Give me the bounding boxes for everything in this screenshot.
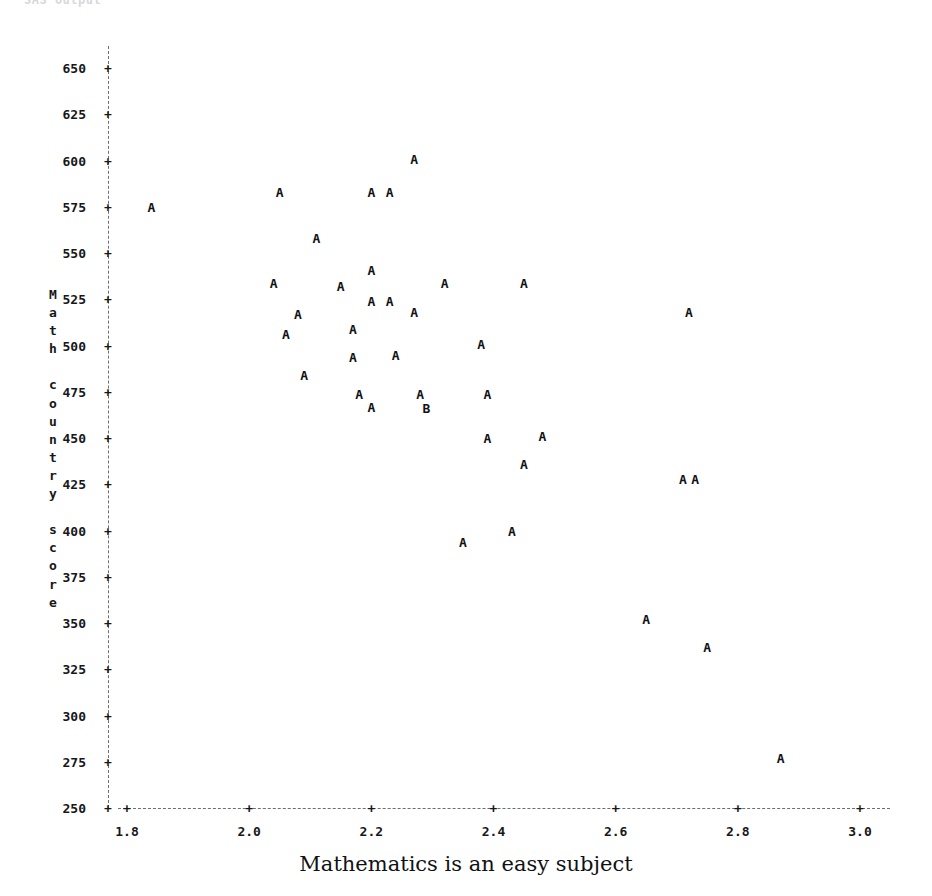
y-tick-label: 325	[63, 662, 86, 677]
y-tick-mark: +	[104, 431, 112, 446]
x-axis-title: Mathematics is an easy subject	[0, 852, 932, 876]
y-tick-label: 450	[63, 431, 86, 446]
y-tick-mark: +	[104, 708, 112, 723]
data-point: A	[355, 386, 363, 401]
y-tick-label: 575	[63, 199, 86, 214]
x-axis-line	[118, 808, 890, 809]
y-title-char: r	[46, 467, 60, 485]
data-point: A	[777, 751, 785, 766]
y-title-char: a	[46, 304, 60, 322]
y-tick-mark: +	[104, 338, 112, 353]
y-tick-mark: +	[104, 107, 112, 122]
y-tick-mark: +	[104, 292, 112, 307]
data-point: A	[349, 321, 357, 336]
scatter-plot: 650+625+600+575+550+525+500+475+450+425+…	[0, 0, 932, 896]
x-tick-mark: +	[245, 801, 253, 816]
y-title-char: u	[46, 413, 60, 431]
data-point: B	[422, 401, 430, 416]
data-point: A	[276, 184, 284, 199]
y-tick-label: 375	[63, 569, 86, 584]
data-point: A	[386, 294, 394, 309]
data-point: A	[703, 640, 711, 655]
y-title-char: r	[46, 576, 60, 594]
y-tick-label: 550	[63, 246, 86, 261]
y-tick-mark: +	[104, 246, 112, 261]
y-tick-label: 650	[63, 61, 86, 76]
y-title-char: y	[46, 485, 60, 503]
data-point: A	[520, 456, 528, 471]
y-tick-mark: +	[104, 61, 112, 76]
y-tick-mark: +	[104, 754, 112, 769]
data-point: A	[270, 275, 278, 290]
y-title-char: c	[46, 539, 60, 557]
data-point: A	[392, 347, 400, 362]
x-tick-mark: +	[367, 801, 375, 816]
data-point: A	[459, 534, 467, 549]
y-tick-label: 250	[63, 801, 86, 816]
y-title-char: o	[46, 395, 60, 413]
x-tick-label: 2.2	[360, 824, 383, 839]
y-tick-label: 600	[63, 153, 86, 168]
data-point: A	[441, 275, 449, 290]
x-tick-label: 2.8	[726, 824, 749, 839]
y-tick-label: 425	[63, 477, 86, 492]
x-tick-mark: +	[734, 801, 742, 816]
y-tick-mark: +	[104, 477, 112, 492]
data-point: A	[691, 471, 699, 486]
data-point: A	[367, 294, 375, 309]
y-tick-label: 625	[63, 107, 86, 122]
y-tick-label: 400	[63, 523, 86, 538]
data-point: A	[367, 262, 375, 277]
data-point: A	[483, 386, 491, 401]
data-point: A	[483, 431, 491, 446]
x-tick-label: 1.8	[115, 824, 138, 839]
y-title-char: h	[46, 340, 60, 358]
data-point: A	[148, 199, 156, 214]
data-point: A	[367, 184, 375, 199]
data-point: A	[508, 523, 516, 538]
y-tick-label: 525	[63, 292, 86, 307]
data-point: A	[642, 612, 650, 627]
y-title-char: n	[46, 431, 60, 449]
x-tick-label: 3.0	[848, 824, 871, 839]
y-tick-mark: +	[104, 616, 112, 631]
data-point: A	[477, 336, 485, 351]
y-title-char: s	[46, 521, 60, 539]
data-point: A	[410, 305, 418, 320]
data-point: A	[679, 471, 687, 486]
data-point: A	[300, 368, 308, 383]
x-tick-label: 2.6	[604, 824, 627, 839]
data-point: A	[282, 327, 290, 342]
y-tick-label: 500	[63, 338, 86, 353]
y-title-char: M	[46, 286, 60, 304]
data-point: A	[520, 275, 528, 290]
y-title-char: e	[46, 594, 60, 612]
x-tick-mark: +	[490, 801, 498, 816]
y-title-char: o	[46, 557, 60, 575]
data-point: A	[367, 399, 375, 414]
x-tick-mark: +	[612, 801, 620, 816]
x-tick-mark: +	[123, 801, 131, 816]
data-point: A	[386, 184, 394, 199]
data-point: A	[337, 279, 345, 294]
data-point: A	[349, 349, 357, 364]
y-tick-mark: +	[104, 662, 112, 677]
data-point: A	[685, 305, 693, 320]
y-tick-label: 475	[63, 384, 86, 399]
y-tick-mark: +	[104, 153, 112, 168]
y-tick-label: 350	[63, 616, 86, 631]
y-axis-title: Math.country.score	[46, 286, 60, 612]
y-title-char: c	[46, 376, 60, 394]
data-point: A	[294, 307, 302, 322]
y-tick-mark: +	[104, 801, 112, 816]
y-tick-mark: +	[104, 199, 112, 214]
data-point: A	[410, 151, 418, 166]
y-title-char: t	[46, 449, 60, 467]
y-title-char: t	[46, 322, 60, 340]
y-tick-mark: +	[104, 569, 112, 584]
y-tick-mark: +	[104, 384, 112, 399]
x-tick-label: 2.4	[482, 824, 505, 839]
y-tick-mark: +	[104, 523, 112, 538]
data-point: A	[416, 386, 424, 401]
y-tick-label: 275	[63, 754, 86, 769]
